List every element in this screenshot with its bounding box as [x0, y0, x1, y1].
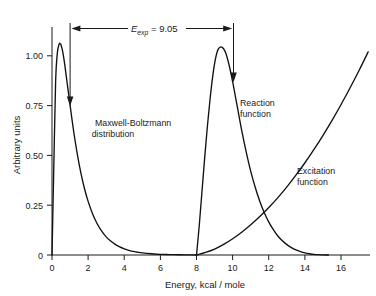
y-axis-title: Arbitrary units: [11, 115, 22, 174]
x-tick-label-4: 8: [194, 263, 199, 273]
curve-reaction-function: [197, 47, 329, 255]
mb-label-line1: Maxwell-Boltzmann: [95, 118, 171, 128]
y-tick-label-3: 0.75: [25, 101, 43, 111]
e-exp-subscript: exp: [137, 29, 148, 37]
e-exp-left-arrowhead-down: [67, 97, 74, 107]
e-exp-label: Eexp = 9.05: [131, 23, 178, 37]
mb-label-line2: distribution: [92, 129, 135, 139]
excitation-label-line1: Excitation: [297, 166, 335, 176]
x-tick-label-2: 4: [122, 263, 127, 273]
label-excitation-function: Excitation function: [297, 166, 335, 187]
x-tick-label-5: 10: [228, 263, 238, 273]
curve-excitation-function: [197, 52, 369, 255]
x-tick-label-7: 14: [300, 263, 310, 273]
excitation-label-line2: function: [297, 177, 328, 187]
x-tick-label-0: 0: [49, 263, 54, 273]
label-maxwell-boltzmann: Maxwell-Boltzmann distribution: [92, 118, 172, 139]
x-axis-ticks: [52, 255, 341, 260]
chart-figure: 0 0.25 0.50 0.75 1.00 0 2 4 6 8 10 12 14…: [0, 0, 376, 296]
y-tick-label-2: 0.50: [25, 151, 43, 161]
x-tick-label-8: 16: [336, 263, 346, 273]
x-tick-label-6: 12: [264, 263, 274, 273]
y-tick-label-0: 0: [38, 251, 43, 261]
e-exp-arrowhead-left: [71, 26, 80, 32]
reaction-label-line1: Reaction: [240, 98, 275, 108]
e-exp-arrowhead-right: [223, 26, 232, 32]
y-axis-ticks: [47, 56, 52, 255]
x-tick-label-3: 6: [158, 263, 163, 273]
e-exp-equals: =: [148, 23, 159, 34]
e-exp-value: 9.05: [159, 23, 178, 34]
reaction-label-line2: function: [240, 109, 271, 119]
chart-plot-area: 0 0.25 0.50 0.75 1.00 0 2 4 6 8 10 12 14…: [0, 0, 376, 296]
y-tick-label-4: 1.00: [25, 51, 43, 61]
label-reaction-function: Reaction function: [240, 98, 275, 119]
curve-maxwell-boltzmann: [52, 43, 197, 255]
y-tick-label-1: 0.25: [25, 201, 43, 211]
x-tick-label-1: 2: [86, 263, 91, 273]
x-axis-title: Energy, kcal / mole: [165, 279, 245, 290]
